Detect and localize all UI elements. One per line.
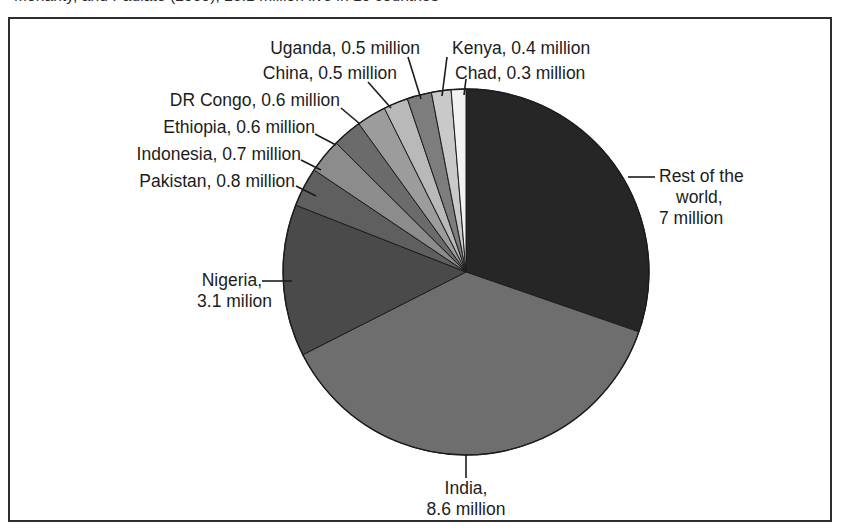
slice-label-uganda: Uganda, 0.5 million [0,38,420,59]
leader-line-ethiopia [315,134,336,145]
slice-label-nigeria-line1: Nigeria, [0,270,262,291]
slice-label-kenya: Kenya, 0.4 million [452,38,590,59]
slice-label-chad: Chad, 0.3 million [455,63,585,84]
slice-label-drcongo: DR Congo, 0.6 million [0,90,340,111]
slice-label-rest-of-world-line2: world, [676,187,723,208]
slice-label-rest-of-world-line1: Rest of the [659,166,744,187]
pie-slices [283,89,649,455]
leader-line-drcongo [341,108,360,124]
slice-label-china: China, 0.5 million [0,63,397,84]
slice-label-india-line2: 8.6 million [386,499,546,520]
slice-label-india-line1: India, [386,478,546,499]
leader-line-uganda [408,57,421,99]
pie-chart: Uganda, 0.5 million Kenya, 0.4 million C… [0,0,845,531]
slice-label-nigeria-line2: 3.1 milion [0,291,272,312]
leader-line-china [368,82,391,108]
slice-label-ethiopia: Ethiopia, 0.6 million [0,117,315,138]
slice-label-pakistan: Pakistan, 0.8 million [0,171,295,192]
slice-label-indonesia: Indonesia, 0.7 million [0,144,301,165]
slice-label-rest-of-world-line3: 7 million [659,208,723,229]
